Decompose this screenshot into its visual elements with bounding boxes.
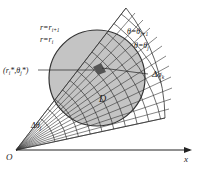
label-origin: O	[6, 152, 13, 162]
x-axis-arrow-icon	[184, 147, 192, 153]
label-point: (ri*,θj*)	[3, 66, 29, 76]
polar-diagram: r=ri+1 r=ri θ=θj+1 θ=θj (ri*,θj*) Δσk D …	[0, 0, 199, 171]
label-theta-next: θ=θj+1	[127, 27, 149, 37]
label-area-element: Δσk	[151, 69, 165, 80]
label-r-next: r=ri+1	[40, 23, 60, 33]
label-region-d: D	[98, 93, 107, 104]
label-x: x	[183, 154, 188, 164]
label-theta-cur: θ=θj	[134, 41, 149, 51]
label-r-cur: r=ri	[40, 35, 54, 45]
